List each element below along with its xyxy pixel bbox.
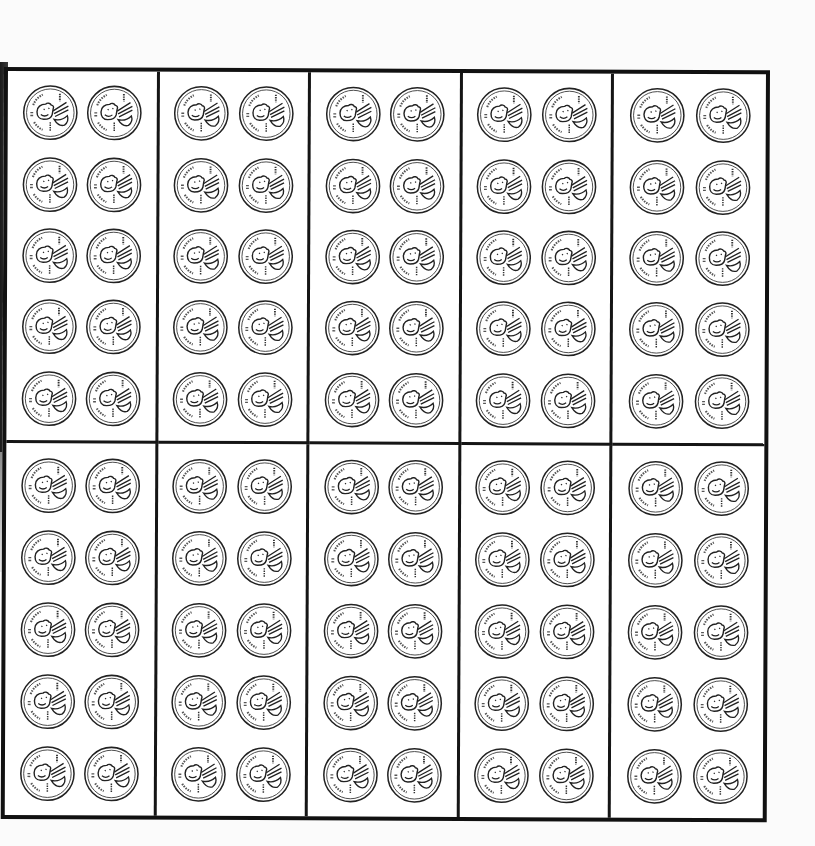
penny-icon [84,457,141,514]
penny-icon [235,602,292,659]
penny-icon [86,85,143,142]
coin-box-4 [461,73,614,446]
penny-icon [387,458,444,515]
penny-icon [540,87,597,144]
penny-icon [627,531,684,588]
penny-icon [234,746,291,803]
penny-icon [171,601,228,658]
penny-icon [626,675,683,732]
penny-icon [322,674,379,731]
penny-icon [388,300,445,357]
penny-icon [539,372,596,429]
penny-icon [322,746,379,803]
penny-icon [325,86,382,143]
penny-icon [389,157,446,214]
penny-icon [170,673,227,730]
penny-icon [171,529,228,586]
penny-icon [474,603,531,660]
penny-icon [322,602,379,659]
penny-icon [324,157,381,214]
penny-icon [475,372,532,429]
penny-icon [475,300,532,357]
penny-icon [20,298,77,355]
penny-icon [237,228,294,285]
penny-icon [83,673,140,730]
penny-icon [627,373,684,430]
penny-icon [540,158,597,215]
penny-icon [626,603,683,660]
penny-icon [389,86,446,143]
penny-icon [628,158,685,215]
penny-icon [235,674,292,731]
penny-icon [694,87,751,144]
penny-icon [173,156,230,213]
penny-icon [237,85,294,142]
penny-icon [388,371,445,428]
penny-icon [628,87,685,144]
penny-icon [19,601,76,658]
penny-icon [627,459,684,516]
penny-icon [626,747,683,804]
coin-counting-worksheet [1,67,770,822]
penny-icon [539,301,596,358]
penny-icon [628,301,685,358]
penny-icon [628,230,685,287]
penny-icon [85,227,142,284]
penny-icon [692,532,749,589]
penny-icon [172,228,229,285]
penny-icon [85,299,142,356]
penny-icon [83,601,140,658]
penny-icon [692,676,749,733]
penny-icon [538,747,595,804]
penny-icon [172,371,229,428]
coin-box-6 [5,443,158,816]
penny-icon [21,156,78,213]
coin-box-9 [460,445,613,818]
penny-icon [323,371,380,428]
penny-icon [475,229,532,286]
penny-icon [323,530,380,587]
penny-icon [19,673,76,730]
penny-icon [18,745,75,802]
penny-icon [171,457,228,514]
penny-icon [237,157,294,214]
penny-icon [387,602,444,659]
coin-box-1 [6,71,159,444]
penny-icon [694,230,751,287]
penny-icon [21,227,78,284]
coin-box-10 [611,446,764,819]
penny-icon [691,748,748,805]
penny-icon [20,457,77,514]
penny-icon [474,675,531,732]
penny-icon [538,603,595,660]
penny-icon [538,531,595,588]
penny-icon [170,745,227,802]
penny-icon [540,229,597,286]
coin-box-3 [310,72,463,445]
penny-icon [476,86,533,143]
penny-icon [83,745,140,802]
penny-icon [474,531,531,588]
coin-box-5 [613,74,766,447]
penny-icon [386,674,443,731]
penny-icon [236,299,293,356]
penny-icon [235,530,292,587]
penny-icon [323,458,380,515]
penny-icon [694,159,751,216]
penny-icon [20,370,77,427]
coin-box-7 [156,444,309,817]
penny-icon [386,746,443,803]
penny-icon [19,529,76,586]
penny-icon [324,300,381,357]
coin-box-2 [158,72,311,445]
penny-icon [473,747,530,804]
penny-icon [538,675,595,732]
coin-box-grid [5,71,766,818]
penny-icon [388,229,445,286]
penny-icon [692,604,749,661]
penny-icon [236,458,293,515]
penny-icon [84,529,141,586]
penny-icon [474,459,531,516]
penny-icon [476,158,533,215]
penny-icon [84,370,141,427]
